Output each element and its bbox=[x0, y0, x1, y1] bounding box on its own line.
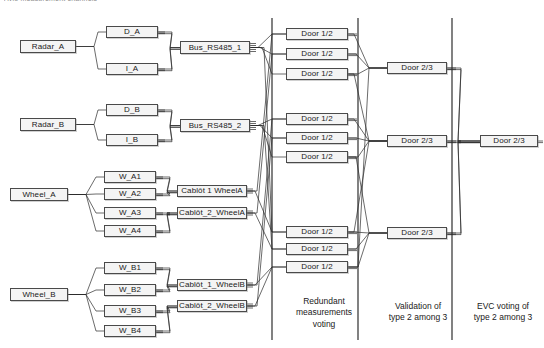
wire-bus-door12-4-0 bbox=[247, 267, 286, 285]
wire-fan-2 bbox=[76, 110, 106, 125]
wire-ch-bus-b-0 bbox=[158, 34, 180, 50]
wire-fan-8 bbox=[68, 268, 104, 295]
wire-ch-bus-10 bbox=[156, 306, 177, 311]
bus-node-cablot-1-wheelb[interactable]: Cablôt_1_WheelB bbox=[177, 279, 247, 291]
channel-node-d-b[interactable]: D_B bbox=[106, 104, 158, 116]
door12-node-door12-6[interactable]: Door 1/2 bbox=[286, 151, 348, 163]
channel-node-w-a3[interactable]: W_A3 bbox=[104, 207, 156, 219]
wire-ch-bus-8 bbox=[156, 268, 177, 285]
wire-ch-bus-4 bbox=[156, 177, 177, 191]
final-node-door23-final[interactable]: Door 2/3 bbox=[480, 135, 538, 147]
column-caption-1: Validation of type 2 among 3 bbox=[373, 301, 463, 324]
diagram-canvas: Avio measurement channels Radar_ARadar_B… bbox=[0, 0, 544, 348]
channel-node-w-a1[interactable]: W_A1 bbox=[104, 171, 156, 183]
wire-ch-bus-b-11 bbox=[156, 308, 177, 333]
bus-node-bus-rs485-1[interactable]: Bus_RS485_1 bbox=[180, 41, 250, 54]
channel-node-w-b3[interactable]: W_B3 bbox=[104, 305, 156, 317]
channel-node-w-a2[interactable]: W_A2 bbox=[104, 188, 156, 200]
wire-fan-3 bbox=[76, 125, 106, 141]
wire-door12-door23-7 bbox=[348, 233, 387, 249]
wire-ch-bus-b-8 bbox=[156, 270, 177, 287]
channel-node-w-b1[interactable]: W_B1 bbox=[104, 262, 156, 274]
wire-door12-door23-10 bbox=[348, 157, 387, 233]
wire-fan-1 bbox=[76, 47, 106, 70]
wire-ch-bus-b-3 bbox=[158, 127, 180, 142]
door12-node-door12-1[interactable]: Door 1/2 bbox=[286, 28, 348, 40]
channel-node-w-b4[interactable]: W_B4 bbox=[104, 325, 156, 337]
door12-node-door12-7[interactable]: Door 1/2 bbox=[286, 226, 348, 238]
wire-ch-bus-b-4 bbox=[156, 179, 177, 193]
wire-ch-bus-b-10 bbox=[156, 308, 177, 313]
wire-fan-10 bbox=[68, 295, 104, 312]
source-node-radar-b[interactable]: Radar_B bbox=[20, 118, 76, 131]
wire-door12-door23-8 bbox=[348, 233, 387, 267]
wire-ch-bus-b-1 bbox=[158, 49, 180, 70]
wire-ch-bus-2 bbox=[158, 110, 180, 126]
wire-fan-4 bbox=[68, 177, 104, 195]
door23-node-door23-3[interactable]: Door 2/3 bbox=[387, 227, 447, 239]
door23-node-door23-2[interactable]: Door 2/3 bbox=[387, 135, 447, 147]
door12-node-door12-8[interactable]: Door 1/2 bbox=[286, 243, 348, 255]
wire-ch-bus-b-9 bbox=[156, 287, 177, 292]
wire-bus-door12-1-0 bbox=[250, 119, 286, 126]
source-node-wheel-a[interactable]: Wheel_A bbox=[10, 188, 68, 201]
wire-ch-bus-b-7 bbox=[156, 215, 177, 233]
door12-node-door12-5[interactable]: Door 1/2 bbox=[286, 132, 348, 144]
wire-door12-door23-2 bbox=[348, 68, 387, 74]
wire-door12-door23-12 bbox=[348, 141, 387, 232]
bus-node-bus-rs485-2[interactable]: Bus_RS485_2 bbox=[180, 119, 250, 132]
door12-node-door12-9[interactable]: Door 1/2 bbox=[286, 261, 348, 273]
wire-fan-0 bbox=[76, 32, 106, 47]
wire-bus-door12-0-1 bbox=[250, 48, 286, 55]
wire-door12-door23-1 bbox=[348, 54, 387, 68]
channel-node-d-a[interactable]: D_A bbox=[106, 26, 158, 38]
wire-ch-bus-9 bbox=[156, 285, 177, 290]
door23-node-door23-1[interactable]: Door 2/3 bbox=[387, 62, 447, 74]
wire-ch-bus-11 bbox=[156, 306, 177, 331]
wire-ch-bus-0 bbox=[158, 32, 180, 48]
column-caption-2: EVC voting of type 2 among 3 bbox=[462, 301, 544, 324]
wire-door12-door23-9 bbox=[348, 74, 387, 141]
wire-ch-bus-7 bbox=[156, 213, 177, 231]
source-node-radar-a[interactable]: Radar_A bbox=[20, 40, 76, 53]
wire-ch-bus-b-2 bbox=[158, 112, 180, 128]
door12-node-door12-2[interactable]: Door 1/2 bbox=[286, 48, 348, 60]
bus-node-cablot-2-wheelb[interactable]: Cablôt_2_WheelB bbox=[177, 300, 247, 312]
connector-layer bbox=[0, 0, 544, 348]
channel-node-w-a4[interactable]: W_A4 bbox=[104, 225, 156, 237]
wire-ch-bus-1 bbox=[158, 48, 180, 70]
door12-node-door12-3[interactable]: Door 1/2 bbox=[286, 68, 348, 80]
source-node-wheel-b[interactable]: Wheel_B bbox=[10, 288, 68, 301]
wire-fan-6 bbox=[68, 195, 104, 214]
channel-node-i-b[interactable]: I_B bbox=[106, 134, 158, 146]
channel-node-i-a[interactable]: I_A bbox=[106, 63, 158, 75]
channel-node-w-b2[interactable]: W_B2 bbox=[104, 284, 156, 296]
wire-ch-bus-3 bbox=[158, 126, 180, 141]
door12-node-door12-4[interactable]: Door 1/2 bbox=[286, 113, 348, 125]
wire-door12-door23-0 bbox=[348, 34, 387, 68]
bus-node-cablot-2-wheela[interactable]: Cablôt_2_WheelA bbox=[177, 207, 247, 219]
column-caption-0: Redundant measurements voting bbox=[279, 296, 369, 330]
bus-node-cablot-1-wheela[interactable]: Cablôt 1 WheelA bbox=[177, 185, 247, 197]
wire-fan-11 bbox=[68, 295, 104, 332]
